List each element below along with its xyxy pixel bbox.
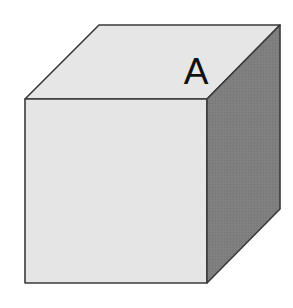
- cube-diagram: A: [0, 0, 293, 308]
- cube-front-face: [25, 99, 207, 283]
- top-face-label: A: [184, 51, 209, 92]
